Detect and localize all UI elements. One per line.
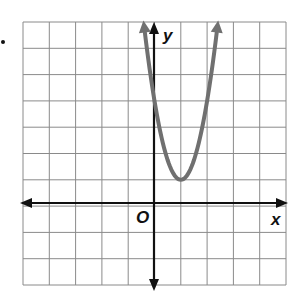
curve-left-arrow-icon: [139, 21, 151, 34]
origin-label: O: [136, 208, 149, 227]
curve-right-arrow-icon: [211, 21, 223, 34]
y-axis-label: y: [162, 26, 174, 45]
y-axis-up-arrow-icon: [149, 22, 159, 34]
coordinate-graph: y x O: [0, 0, 294, 303]
axes: [20, 22, 288, 291]
x-axis-label: x: [270, 210, 282, 229]
